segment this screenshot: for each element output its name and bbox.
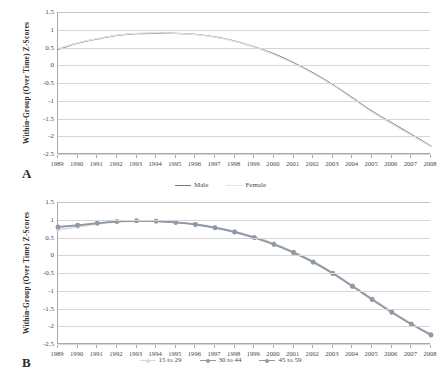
panel-a-y-tick-labels: 1.510.50-0.5-1-1.5-2-2.5 bbox=[30, 12, 54, 154]
y-tick-label: -1 bbox=[48, 287, 54, 295]
y-tick-label: 1 bbox=[51, 216, 55, 224]
x-tick-label: 2008 bbox=[423, 160, 436, 167]
series-marker bbox=[56, 225, 61, 230]
gridline bbox=[58, 273, 430, 274]
gridline bbox=[58, 65, 430, 66]
legend-item[interactable]: 30 to 44 bbox=[200, 356, 242, 364]
x-tick-label: 1997 bbox=[207, 160, 220, 167]
y-tick-label: -1.5 bbox=[43, 305, 54, 313]
x-tick-mark bbox=[273, 345, 274, 348]
gridline bbox=[58, 220, 430, 221]
panel-b-legend: 15 to 2930 to 4445 to 59 bbox=[0, 356, 441, 364]
x-tick-mark bbox=[371, 155, 372, 158]
panel-b: Within-Group (Over Time) Z-Scores 1.510.… bbox=[0, 188, 441, 377]
x-tick-mark bbox=[430, 345, 431, 348]
panel-a: Within-Group (Over Time) Z-Scores 1.510.… bbox=[0, 0, 441, 190]
series-marker bbox=[75, 223, 80, 228]
x-tick-mark bbox=[155, 155, 156, 158]
x-tick-mark bbox=[332, 345, 333, 348]
gridline bbox=[58, 291, 430, 292]
x-tick-mark bbox=[194, 155, 195, 158]
y-tick-label: -1 bbox=[48, 97, 54, 105]
x-tick-mark bbox=[214, 345, 215, 348]
x-tick-mark bbox=[116, 345, 117, 348]
series-marker bbox=[232, 230, 237, 235]
y-tick-label: -0.5 bbox=[43, 79, 54, 87]
x-tick-label: 1991 bbox=[90, 160, 103, 167]
x-tick-mark bbox=[175, 155, 176, 158]
y-tick-label: -0.5 bbox=[43, 269, 54, 277]
legend-marker-icon bbox=[206, 359, 210, 363]
x-tick-label: 1998 bbox=[227, 160, 240, 167]
panel-a-plot-area bbox=[57, 12, 430, 154]
legend-item[interactable]: 15 to 29 bbox=[140, 356, 182, 364]
y-tick-label: -2 bbox=[48, 322, 54, 330]
y-tick-label: -2.5 bbox=[43, 150, 54, 158]
series-line bbox=[58, 33, 431, 147]
x-tick-label: 1990 bbox=[70, 160, 83, 167]
legend-swatch-icon bbox=[259, 360, 275, 361]
x-tick-mark bbox=[351, 345, 352, 348]
x-tick-label: 2001 bbox=[286, 160, 299, 167]
x-tick-label: 2005 bbox=[365, 160, 378, 167]
x-tick-mark bbox=[410, 345, 411, 348]
panel-a-x-tick-labels: 1989199019911992199319941995199619971998… bbox=[57, 155, 430, 173]
x-tick-mark bbox=[293, 155, 294, 158]
gridline bbox=[58, 101, 430, 102]
x-tick-label: 1999 bbox=[247, 160, 260, 167]
panel-b-y-tick-labels: 1.510.50-0.5-1-1.5-2-2.5 bbox=[30, 202, 54, 344]
x-tick-mark bbox=[234, 345, 235, 348]
y-tick-label: 0.5 bbox=[45, 234, 54, 242]
x-tick-mark bbox=[214, 155, 215, 158]
x-tick-mark bbox=[136, 155, 137, 158]
gridline bbox=[58, 119, 430, 120]
gridline bbox=[58, 83, 430, 84]
series-marker bbox=[272, 242, 277, 247]
legend-label: 15 to 29 bbox=[159, 356, 182, 364]
x-tick-mark bbox=[351, 155, 352, 158]
legend-marker-icon bbox=[265, 359, 269, 363]
legend-item[interactable]: 45 to 59 bbox=[259, 356, 301, 364]
x-tick-mark bbox=[175, 345, 176, 348]
x-tick-mark bbox=[253, 345, 254, 348]
x-tick-label: 1989 bbox=[50, 160, 63, 167]
series-marker bbox=[370, 297, 375, 302]
legend-label: 45 to 59 bbox=[278, 356, 301, 364]
x-tick-mark bbox=[253, 155, 254, 158]
x-tick-mark bbox=[57, 345, 58, 348]
x-tick-mark bbox=[136, 345, 137, 348]
x-tick-mark bbox=[77, 155, 78, 158]
x-tick-mark bbox=[155, 345, 156, 348]
legend-swatch-icon bbox=[140, 360, 156, 361]
x-tick-label: 1994 bbox=[149, 160, 162, 167]
panel-a-letter: A bbox=[22, 166, 31, 182]
x-tick-mark bbox=[410, 155, 411, 158]
legend-swatch-icon bbox=[175, 185, 191, 186]
x-tick-mark bbox=[293, 345, 294, 348]
figure-container: Within-Group (Over Time) Z-Scores 1.510.… bbox=[0, 0, 441, 377]
y-tick-label: -2 bbox=[48, 132, 54, 140]
x-tick-label: 1992 bbox=[109, 160, 122, 167]
gridline bbox=[58, 136, 430, 137]
x-tick-mark bbox=[371, 345, 372, 348]
x-tick-mark bbox=[273, 155, 274, 158]
series-marker bbox=[429, 333, 434, 338]
x-tick-mark bbox=[57, 155, 58, 158]
x-tick-label: 1993 bbox=[129, 160, 142, 167]
legend-label: 30 to 44 bbox=[219, 356, 242, 364]
series-marker bbox=[193, 222, 198, 227]
series-line bbox=[58, 33, 431, 146]
x-tick-label: 1995 bbox=[168, 160, 181, 167]
series-marker bbox=[389, 310, 394, 315]
x-tick-mark bbox=[194, 345, 195, 348]
y-tick-label: 0 bbox=[51, 251, 55, 259]
x-tick-mark bbox=[430, 155, 431, 158]
x-tick-label: 2007 bbox=[404, 160, 417, 167]
legend-swatch-icon bbox=[200, 360, 216, 361]
x-tick-label: 2006 bbox=[384, 160, 397, 167]
x-tick-label: 1996 bbox=[188, 160, 201, 167]
gridline bbox=[58, 238, 430, 239]
x-tick-mark bbox=[116, 155, 117, 158]
x-tick-label: 2003 bbox=[325, 160, 338, 167]
y-tick-label: 1.5 bbox=[45, 198, 54, 206]
